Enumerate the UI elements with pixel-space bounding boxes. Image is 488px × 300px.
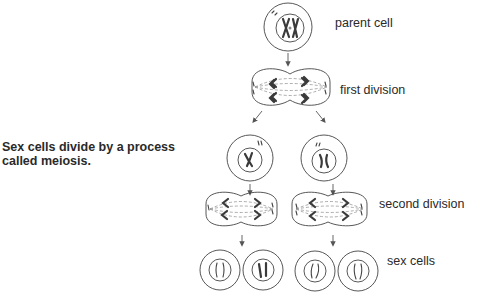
intermediate-cell-right xyxy=(301,135,347,181)
sex-cell-3 xyxy=(295,251,335,291)
sex-cell-2 xyxy=(243,250,283,290)
sex-cell-4 xyxy=(338,251,378,291)
meiosis-diagram xyxy=(0,0,488,300)
second-division-cell-right xyxy=(292,192,367,226)
intermediate-cell-left xyxy=(227,135,273,181)
parent-cell xyxy=(264,3,312,51)
second-division-cell-left xyxy=(206,192,277,226)
arrow-down-right-icon xyxy=(316,111,324,121)
sex-cell-1 xyxy=(200,250,240,290)
first-division-cell xyxy=(252,69,330,106)
arrow-down-left-icon xyxy=(254,111,262,121)
